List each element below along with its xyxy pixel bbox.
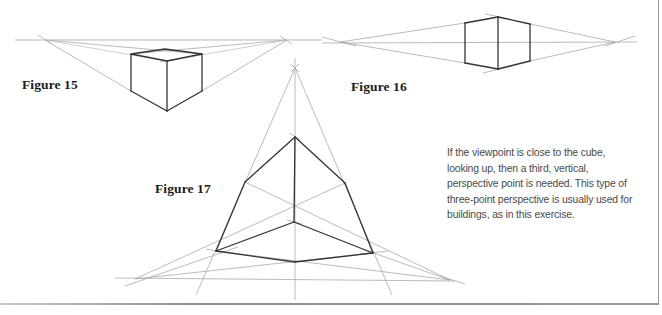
- figure-16-label: Figure 16: [351, 79, 407, 95]
- fig17-cube-edge: [245, 137, 295, 182]
- fig16-guide: [530, 42, 615, 61]
- fig16-left-vp-mark: [322, 37, 356, 46]
- fig17-guide: [365, 250, 450, 280]
- fig16-cube-edge: [498, 61, 530, 69]
- fig17-horizon-line: [115, 278, 455, 281]
- fig16-horizon-line: [322, 42, 637, 43]
- fig17-guide: [135, 183, 345, 279]
- fig17-cube-edge: [345, 183, 373, 253]
- page-frame-bottom-border: [0, 303, 659, 305]
- figure-17-label: Figure 17: [155, 181, 211, 197]
- fig17-cube-edge: [216, 182, 245, 251]
- figure-15-drawing: [15, 35, 322, 111]
- fig16-cube-edge: [498, 17, 530, 24]
- fig15-cube-edge: [167, 91, 202, 111]
- figure-caption-text: If the viewpoint is close to the cube, l…: [447, 145, 637, 223]
- fig16-cube-edge: [465, 63, 498, 69]
- fig17-cube-edge: [216, 251, 295, 262]
- fig17-cube-edge: [295, 137, 345, 183]
- fig17-guide: [245, 182, 450, 280]
- fig16-cube-edge: [465, 17, 498, 23]
- fig17-cube-edge: [295, 253, 373, 262]
- fig16-guide: [530, 24, 615, 42]
- fig15-guide: [131, 40, 287, 54]
- figure-16-drawing: [322, 14, 637, 73]
- fig15-guide: [45, 40, 202, 54]
- fig16-guide: [340, 23, 465, 42]
- fig15-cube-edge: [131, 91, 167, 111]
- page-frame-right-border: [658, 0, 659, 304]
- fig16-guide: [340, 42, 465, 63]
- figure-15-label: Figure 15: [22, 77, 78, 93]
- fig17-guide: [440, 276, 465, 284]
- book-page: Figure 15 Figure 16 Figure 17 If the vie…: [0, 0, 662, 315]
- fig17-guide: [125, 247, 238, 286]
